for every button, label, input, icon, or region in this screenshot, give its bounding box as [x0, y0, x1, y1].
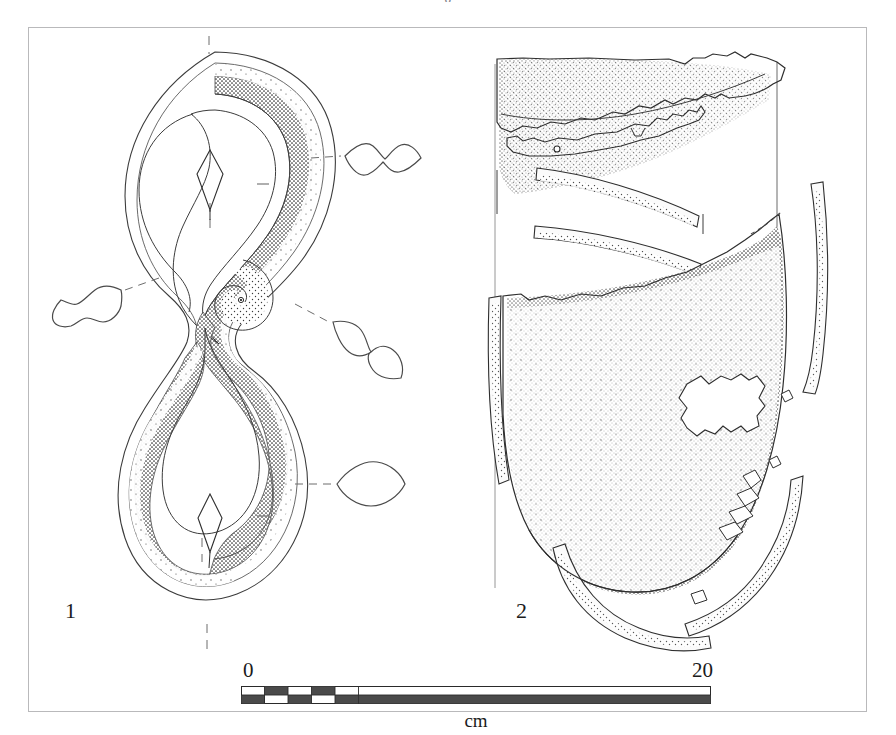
fig1-profile-left [52, 286, 121, 327]
figure-2-drawing [488, 52, 827, 651]
fig2-rivet-hole [554, 146, 560, 152]
fig2-body-loss-area [679, 374, 765, 436]
fig1-section-ticks [257, 184, 269, 516]
figure-2-label: 2 [516, 598, 527, 624]
fig2-band-sherd-2 [534, 226, 701, 276]
fig1-lower-lozenge-tail [209, 552, 210, 568]
fig2-band-sherd-1-shade [540, 175, 694, 226]
scale-bar-unit-label: cm [241, 710, 711, 732]
figure-1-drawing [52, 36, 421, 650]
figure-1-label: 1 [65, 598, 76, 624]
plate-frame-border: 1 2 0 20 [28, 27, 867, 712]
plate-artwork [29, 28, 866, 711]
scale-bar: 0 20 [241, 658, 711, 735]
illustration-plate: g [0, 0, 896, 735]
scale-bar-max-label: 20 [692, 658, 713, 683]
fig1-profile-middle-right [333, 321, 403, 378]
scale-bar-graphic [241, 686, 711, 712]
fig2-base-fragment [691, 590, 707, 604]
fig1-profile-upper-right [345, 144, 421, 175]
cropped-header-text: g [0, 0, 896, 2]
fig1-profile-lower-right [337, 462, 405, 506]
scale-bar-min-label: 0 [243, 658, 254, 683]
